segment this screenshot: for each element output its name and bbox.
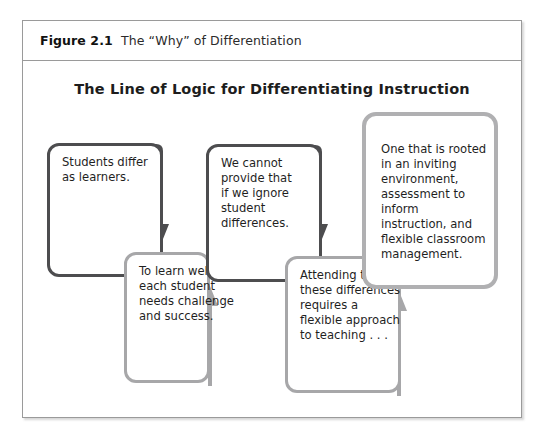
flow-node-text: One that is rooted in an inviting enviro… [381, 142, 505, 263]
flow-node-rooted-inviting: One that is rooted in an inviting enviro… [362, 112, 498, 289]
figure-page: Figure 2.1 The “Why” of Differentiation … [0, 0, 550, 448]
flow-node-text: Students differ as learners. [62, 155, 152, 185]
flow-node-learn-well: To learn well, each student needs challe… [124, 252, 210, 383]
flow-node-text: We cannot provide that if we ignore stud… [221, 156, 311, 231]
